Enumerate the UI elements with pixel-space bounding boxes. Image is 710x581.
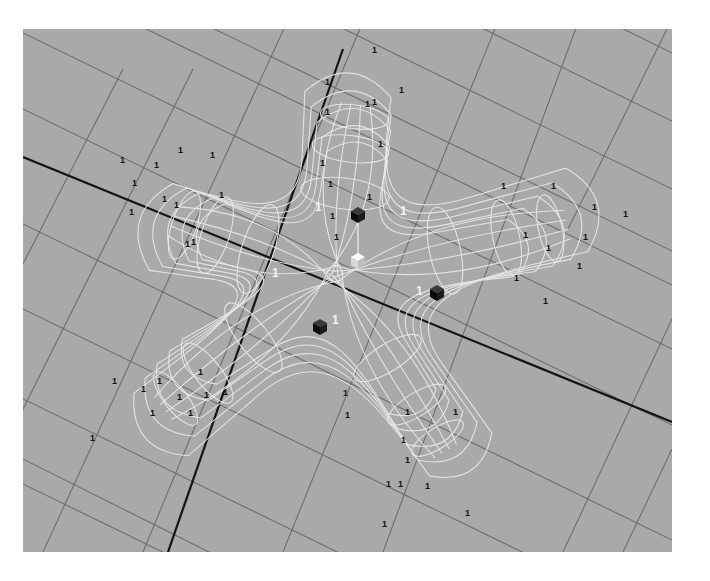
cv-weight-label: 1 bbox=[378, 139, 383, 149]
cv-weight-label: 1 bbox=[365, 99, 370, 109]
cv-weight-label: 1 bbox=[405, 455, 410, 465]
cv-weight-label: 1 bbox=[132, 178, 137, 188]
cv-weight-label: 1 bbox=[583, 232, 588, 242]
cv-weight-label: 1 bbox=[453, 407, 458, 417]
cv-weight-label: 1 bbox=[112, 376, 117, 386]
starfish-outline-isoparm[interactable] bbox=[134, 73, 599, 478]
cv-weight-label: 1 bbox=[157, 376, 162, 386]
cv-weight-label: 1 bbox=[150, 408, 155, 418]
grid-line bbox=[43, 29, 293, 552]
perspective-viewport[interactable]: 1111111111111111111111111111111111111111… bbox=[23, 29, 672, 552]
arm-isoparm bbox=[171, 267, 330, 419]
starfish-nurbs-wireframe[interactable] bbox=[134, 73, 599, 478]
cv-weight-label: 1 bbox=[425, 481, 430, 491]
cv-weight-label: 1 bbox=[501, 181, 506, 191]
cv-weight-label: 1 bbox=[154, 160, 159, 170]
cv-weight-label: 1 bbox=[386, 479, 391, 489]
cv-weight-label: 1 bbox=[328, 179, 333, 189]
cv-weight-label: 1 bbox=[367, 192, 372, 202]
cv-weight-label: 1 bbox=[185, 239, 190, 249]
cv-weight-label: 1 bbox=[162, 194, 167, 204]
cv-weight-label: 1 bbox=[372, 97, 377, 107]
grid-line bbox=[583, 29, 672, 53]
grid-line bbox=[568, 29, 672, 229]
selected-cv-weight-label: 1 bbox=[272, 266, 279, 280]
arm-cross-section bbox=[146, 366, 204, 432]
selected-cv-weight-label: 1 bbox=[416, 284, 423, 298]
cv-weight-label: 1 bbox=[188, 408, 193, 418]
cv-weight-label: 1 bbox=[325, 77, 330, 87]
selected-cv-weight-label: 1 bbox=[400, 204, 407, 218]
cube-handle-black-left[interactable] bbox=[313, 319, 327, 335]
cv-weight-label: 1 bbox=[405, 407, 410, 417]
grid-line bbox=[23, 399, 672, 552]
selected-cv-weight-label: 1 bbox=[315, 200, 322, 214]
cv-weight-label: 1 bbox=[191, 237, 196, 247]
grid-line bbox=[23, 484, 672, 552]
arm-cross-section bbox=[407, 414, 469, 463]
grid-line bbox=[443, 29, 672, 121]
cv-weight-label: 1 bbox=[198, 367, 203, 377]
cv-weight-label: 1 bbox=[204, 390, 209, 400]
cv-weight-label: 1 bbox=[334, 232, 339, 242]
grid-line bbox=[23, 359, 223, 552]
world-axes bbox=[23, 49, 672, 552]
cv-weight-label: 1 bbox=[372, 45, 377, 55]
cv-weight-labels: 1111111111111111111111111111111111111111… bbox=[90, 45, 628, 529]
cv-weight-label: 1 bbox=[223, 387, 228, 397]
cv-weight-label: 1 bbox=[514, 273, 519, 283]
grid-line bbox=[23, 309, 672, 552]
cv-weight-label: 1 bbox=[551, 181, 556, 191]
cv-weight-label: 1 bbox=[174, 200, 179, 210]
cv-weight-label: 1 bbox=[320, 158, 325, 168]
cv-weight-label: 1 bbox=[330, 211, 335, 221]
cv-weight-label: 1 bbox=[141, 384, 146, 394]
cv-weight-label: 1 bbox=[90, 433, 95, 443]
cv-weight-label: 1 bbox=[623, 209, 628, 219]
arm-cross-section bbox=[299, 173, 391, 215]
cv-weight-label: 1 bbox=[177, 392, 182, 402]
cv-weight-label: 1 bbox=[577, 261, 582, 271]
cv-weight-label: 1 bbox=[345, 410, 350, 420]
cv-weight-label: 1 bbox=[343, 388, 348, 398]
cv-weight-label: 1 bbox=[325, 107, 330, 117]
cv-weight-label: 1 bbox=[382, 519, 387, 529]
cv-weight-label: 1 bbox=[546, 243, 551, 253]
cv-weight-label: 1 bbox=[219, 190, 224, 200]
cv-weight-label: 1 bbox=[592, 202, 597, 212]
selected-cv-weight-label: 1 bbox=[332, 313, 339, 327]
cv-weight-label: 1 bbox=[178, 145, 183, 155]
grid-line bbox=[563, 319, 672, 552]
cv-weight-label: 1 bbox=[120, 155, 125, 165]
cv-weight-label: 1 bbox=[465, 508, 470, 518]
cv-weight-label: 1 bbox=[543, 296, 548, 306]
cv-weight-label: 1 bbox=[129, 207, 134, 217]
grid-line bbox=[23, 33, 672, 349]
cv-weight-label: 1 bbox=[399, 85, 404, 95]
scene-canvas[interactable]: 1111111111111111111111111111111111111111… bbox=[23, 29, 672, 552]
grid-line bbox=[23, 69, 123, 264]
cv-weight-label: 1 bbox=[523, 230, 528, 240]
cv-weight-label: 1 bbox=[398, 479, 403, 489]
cv-weight-label: 1 bbox=[401, 435, 406, 445]
grid-line bbox=[173, 29, 672, 251]
cv-weight-label: 1 bbox=[210, 150, 215, 160]
